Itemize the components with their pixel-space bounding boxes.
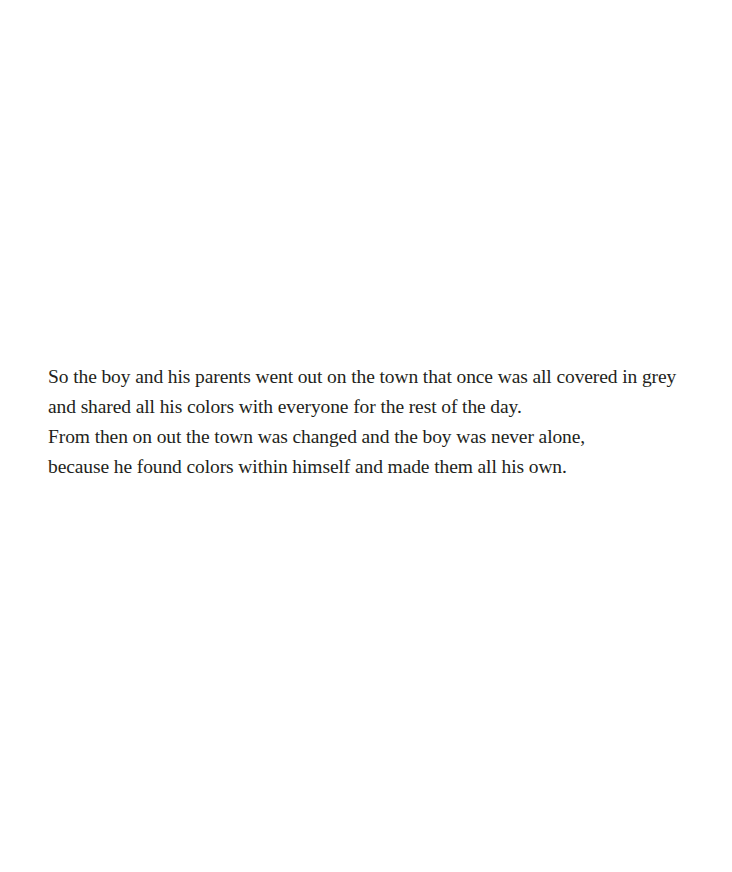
- story-line-1: So the boy and his parents went out on t…: [48, 362, 728, 392]
- story-line-2: and shared all his colors with everyone …: [48, 392, 728, 422]
- story-line-3: From then on out the town was changed an…: [48, 422, 728, 452]
- story-line-4: because he found colors within himself a…: [48, 452, 728, 482]
- story-text-block: So the boy and his parents went out on t…: [48, 362, 728, 482]
- book-page: So the boy and his parents went out on t…: [0, 0, 732, 872]
